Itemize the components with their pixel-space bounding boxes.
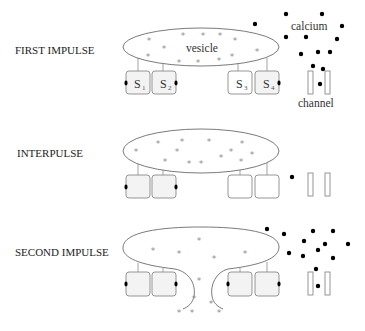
panel-label-first-impulse: FIRST IMPULSE <box>15 44 95 56</box>
sensor-s2: S 2 <box>152 71 176 94</box>
calcium-label: calcium <box>291 20 327 32</box>
sensor-s4 <box>255 272 279 296</box>
svg-text:*: * <box>201 31 206 41</box>
vesicle-label: vesicle <box>186 42 218 54</box>
svg-text:S: S <box>134 77 141 91</box>
sensor-s1 <box>126 175 150 198</box>
svg-text:*: * <box>217 308 222 318</box>
calcium-channel <box>308 173 330 196</box>
svg-text:*: * <box>192 294 197 304</box>
svg-text:*: * <box>197 276 202 286</box>
panel-label-interpulse: INTERPULSE <box>17 147 83 159</box>
svg-text:*: * <box>196 58 201 68</box>
panel-first-impulse: FIRST IMPULSE vesicle * * * * * * * * * … <box>15 12 344 109</box>
svg-text:*: * <box>233 36 238 46</box>
svg-text:*: * <box>199 159 204 169</box>
svg-text:*: * <box>209 299 214 309</box>
svg-text:*: * <box>239 157 244 167</box>
calcium-channel <box>308 272 330 295</box>
svg-text:4: 4 <box>271 84 275 92</box>
svg-text:*: * <box>175 147 180 157</box>
vesicle-release-diagram: FIRST IMPULSE vesicle * * * * * * * * * … <box>0 0 365 331</box>
svg-text:*: * <box>212 254 217 264</box>
svg-text:*: * <box>197 236 202 246</box>
svg-text:*: * <box>156 139 161 149</box>
sensor-s1 <box>126 272 150 296</box>
svg-text:*: * <box>207 137 212 147</box>
fused-vesicle <box>123 227 279 269</box>
sensor-s3: S 3 <box>228 71 252 94</box>
svg-text:*: * <box>151 246 156 256</box>
sensor-s4: S 4 <box>255 71 279 94</box>
svg-text:*: * <box>230 52 235 62</box>
svg-text:3: 3 <box>244 84 248 92</box>
svg-text:*: * <box>187 159 192 169</box>
fusion-pore-right <box>212 269 228 309</box>
calcium-ion <box>290 175 294 179</box>
svg-text:S: S <box>263 77 270 91</box>
sensor-s3 <box>228 175 252 198</box>
svg-text:*: * <box>219 153 224 163</box>
sensor-s4 <box>255 175 279 198</box>
sensor-s2 <box>152 175 176 198</box>
svg-text:*: * <box>147 36 152 46</box>
svg-text:*: * <box>177 58 182 68</box>
svg-text:*: * <box>218 31 223 41</box>
svg-text:S: S <box>236 77 243 91</box>
sensor-s1: S 1 <box>126 71 150 94</box>
sensor-s3 <box>228 272 252 296</box>
sensor-s2 <box>152 272 176 296</box>
panel-interpulse: INTERPULSE * * * * * * * * * * * * * <box>17 129 330 198</box>
svg-text:*: * <box>177 308 182 318</box>
svg-text:2: 2 <box>168 84 172 92</box>
svg-text:*: * <box>243 249 248 259</box>
svg-text:*: * <box>181 31 186 41</box>
svg-text:*: * <box>146 52 151 62</box>
svg-text:S: S <box>160 77 167 91</box>
svg-text:*: * <box>163 157 168 167</box>
svg-text:*: * <box>162 44 167 54</box>
svg-text:*: * <box>217 56 222 66</box>
svg-text:*: * <box>134 147 139 157</box>
svg-text:*: * <box>229 147 234 157</box>
svg-text:*: * <box>240 139 245 149</box>
channel-label: channel <box>298 97 334 109</box>
panel-label-second-impulse: SECOND IMPULSE <box>15 246 109 258</box>
svg-text:1: 1 <box>142 84 146 92</box>
svg-text:*: * <box>255 47 260 57</box>
svg-text:*: * <box>180 137 185 147</box>
svg-text:*: * <box>250 150 255 160</box>
svg-text:*: * <box>177 249 182 259</box>
tethers <box>138 262 267 272</box>
svg-text:*: * <box>190 308 195 318</box>
panel-second-impulse: SECOND IMPULSE * * * * * * * * * * * <box>15 227 350 318</box>
